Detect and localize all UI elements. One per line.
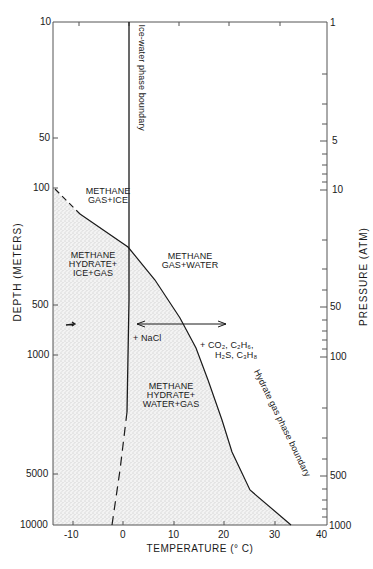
region-hydrate-water: METHANE HYDRATE+ WATER+GAS bbox=[136, 382, 206, 409]
right-tick-50: 50 bbox=[330, 302, 341, 312]
ice-water-boundary-label: Ice-water phase boundary bbox=[137, 25, 146, 135]
nacl-annotation: + NaCl bbox=[133, 334, 161, 343]
right-tick-10: 10 bbox=[332, 185, 343, 195]
left-tick-100: 100 bbox=[33, 183, 50, 193]
gas-additives-line1: + CO₂, C₂H₆, bbox=[200, 341, 254, 350]
x-tick-40: 40 bbox=[316, 530, 327, 540]
x-tick-10: 10 bbox=[168, 530, 179, 540]
gas-additives-line2: H₂S, C₃H₈ bbox=[215, 351, 257, 360]
right-tick-500: 500 bbox=[330, 471, 347, 481]
phase-diagram bbox=[0, 0, 373, 569]
x-tick-30: 30 bbox=[269, 530, 280, 540]
x-axis-title: TEMPERATURE (° C) bbox=[130, 544, 270, 553]
region-gas-ice: METHANE GAS+ICE bbox=[78, 187, 138, 205]
left-tick-1000: 1000 bbox=[27, 350, 49, 360]
left-axis-title: DEPTH (METERS) bbox=[13, 232, 22, 322]
left-tick-50: 50 bbox=[39, 133, 50, 143]
region-hydrate-ice: METHANE HYDRATE+ ICE+GAS bbox=[63, 251, 123, 278]
x-tick-20: 20 bbox=[218, 530, 229, 540]
left-tick-500: 500 bbox=[32, 300, 49, 310]
left-tick-10: 10 bbox=[40, 17, 51, 27]
x-tick-0: 0 bbox=[120, 530, 126, 540]
x-tick-neg10: -10 bbox=[64, 530, 78, 540]
top-axis-ticks bbox=[79, 22, 280, 26]
right-axis-title: PRESSURE (ATM) bbox=[359, 227, 368, 327]
right-tick-1: 1 bbox=[330, 18, 336, 28]
left-tick-5000: 5000 bbox=[26, 469, 48, 479]
left-tick-10000: 10000 bbox=[20, 520, 48, 530]
region-gas-water: METHANE GAS+WATER bbox=[155, 252, 225, 270]
right-tick-5: 5 bbox=[332, 136, 338, 146]
right-tick-1000: 1000 bbox=[329, 521, 351, 531]
right-tick-100: 100 bbox=[330, 352, 347, 362]
right-axis-ticks bbox=[320, 74, 327, 517]
